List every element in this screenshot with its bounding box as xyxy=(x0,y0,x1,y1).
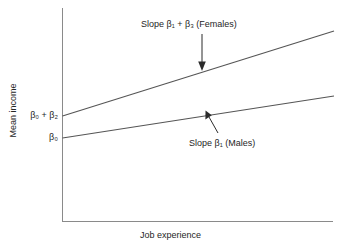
plot-canvas xyxy=(0,0,343,252)
annotation-arrowhead-females xyxy=(198,62,206,72)
regression-interaction-chart: β₀ + β₂ β₀ Mean income Job experience Sl… xyxy=(0,0,343,252)
annotation-arrow-males xyxy=(209,117,218,133)
regression-line-females xyxy=(63,31,335,116)
y-axis-title: Mean income xyxy=(8,71,19,151)
regression-line-males xyxy=(63,96,335,138)
annotation-label-females: Slope β₁ + β₃ (Females) xyxy=(141,19,237,30)
x-axis-title: Job experience xyxy=(140,230,201,241)
annotation-arrowhead-males xyxy=(205,111,211,120)
annotation-label-males: Slope β₁ (Males) xyxy=(189,138,255,149)
